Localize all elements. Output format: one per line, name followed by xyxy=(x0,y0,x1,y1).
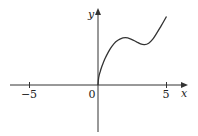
y-axis-label: y xyxy=(87,8,95,21)
tick-label-neg5: −5 xyxy=(21,88,37,101)
function-curve xyxy=(98,17,167,86)
tick-label-0: 0 xyxy=(89,88,96,101)
function-graph: −5 0 5 x y xyxy=(0,0,198,136)
y-axis-arrow-icon xyxy=(95,8,101,15)
x-axis-label: x xyxy=(181,87,188,100)
tick-label-5: 5 xyxy=(163,88,170,101)
